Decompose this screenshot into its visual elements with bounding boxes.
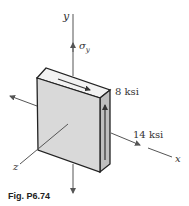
stress-element-figure: y σy 8 ksi 14 ksi x z Fig. P6.74 — [0, 0, 189, 206]
sigma-subscript: y — [86, 46, 90, 54]
diagram-svg — [0, 0, 189, 206]
y-axis-label: y — [63, 11, 69, 22]
figure-caption: Fig. P6.74 — [8, 191, 50, 201]
shear-stress-label: 8 ksi — [115, 87, 139, 97]
sigma-y-label: σy — [79, 41, 90, 54]
left-stress-arrow — [10, 96, 37, 106]
x-axis-label: x — [175, 154, 181, 164]
normal-stress-label: 14 ksi — [133, 130, 163, 140]
sigma-symbol: σ — [79, 40, 86, 51]
z-axis-label: z — [13, 162, 18, 172]
x-axis — [148, 148, 172, 157]
